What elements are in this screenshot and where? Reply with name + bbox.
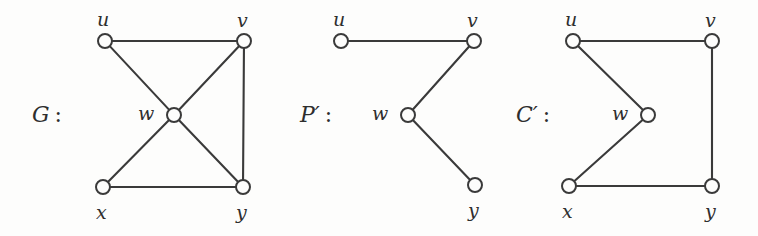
vertex-G-w [167,108,181,122]
edge-Pprime-w-y [413,120,470,180]
vertex-label-Pprime-w: w [372,104,388,123]
graph-name-letter-Pprime: P [300,102,315,127]
vertex-label-G-x: x [96,203,107,222]
graph-name-letter-Cprime: C [516,102,533,127]
graph-figure: uvwxyG:uvwyP′:uvwxyC′: [0,0,758,236]
graph-name-colon-Pprime: : [320,102,332,127]
vertex-G-u [98,34,112,48]
graph-name-Pprime: P′: [300,104,332,126]
vertex-G-v [237,34,251,48]
edge-G-v-w [179,46,239,110]
graph-name-G: G: [32,104,62,126]
vertex-label-Cprime-u: u [565,10,577,29]
vertex-Pprime-y [468,178,482,192]
vertex-G-x [96,180,110,194]
vertex-label-G-v: v [237,11,248,30]
vertex-Cprime-w [641,108,655,122]
vertex-Cprime-u [566,34,580,48]
vertex-label-Cprime-y: y [705,202,716,221]
edge-G-u-w [110,46,169,110]
vertex-label-Pprime-v: v [467,11,478,30]
vertex-Pprime-w [401,108,415,122]
vertex-label-G-w: w [138,104,154,123]
edge-Cprime-u-w [578,46,643,110]
graph-name-letter-G: G [32,102,50,127]
vertex-Cprime-y [705,179,719,193]
vertex-label-G-y: y [236,203,247,222]
edge-G-w-x [108,120,169,182]
vertex-label-G-u: u [97,10,109,29]
vertex-Pprime-u [334,34,348,48]
vertex-Pprime-v [467,34,481,48]
graph-name-colon-G: : [50,102,62,127]
edge-G-w-y [179,120,238,182]
vertex-label-Pprime-y: y [468,201,479,220]
vertex-label-Cprime-w: w [612,104,628,123]
vertex-Cprime-v [705,34,719,48]
vertex-G-y [236,180,250,194]
edge-Pprime-v-w [413,46,470,110]
vertex-label-Pprime-u: u [333,10,345,29]
edge-G-v-y [243,48,244,180]
vertex-label-Cprime-v: v [705,11,716,30]
edge-Cprime-w-x [574,120,643,182]
vertex-label-Cprime-x: x [562,202,573,221]
graph-name-colon-Cprime: : [538,102,550,127]
vertex-Cprime-x [562,179,576,193]
graph-name-Cprime: C′: [516,104,550,126]
